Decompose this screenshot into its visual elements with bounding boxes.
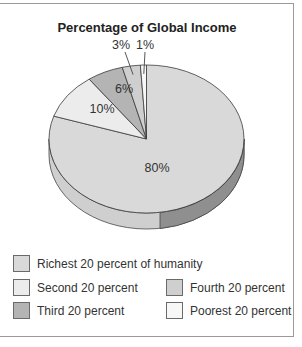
legend-item-third: Third 20 percent	[13, 302, 124, 319]
slice-value-label: 10%	[89, 102, 114, 116]
legend-swatch	[13, 279, 30, 296]
pie-chart: 80%10%6%3%1%	[0, 0, 302, 250]
slice-value-label: 3%	[112, 38, 130, 52]
slice-value-label: 6%	[115, 82, 133, 96]
legend-label: Fourth 20 percent	[190, 281, 285, 295]
pie-slices	[49, 65, 244, 213]
legend-item-second: Second 20 percent	[13, 279, 138, 296]
legend-swatch	[13, 302, 30, 319]
legend-label: Poorest 20 percent	[190, 304, 291, 318]
legend-item-richest: Richest 20 percent of humanity	[13, 255, 202, 272]
legend-label: Richest 20 percent of humanity	[37, 257, 202, 271]
legend-item-fourth: Fourth 20 percent	[166, 279, 285, 296]
slice-value-label: 80%	[144, 161, 169, 175]
slice-value-label: 1%	[136, 38, 154, 52]
legend-swatch	[166, 279, 183, 296]
legend-label: Second 20 percent	[37, 281, 138, 295]
legend-item-poorest: Poorest 20 percent	[166, 302, 291, 319]
legend-swatch	[166, 302, 183, 319]
legend-label: Third 20 percent	[37, 304, 124, 318]
legend-swatch	[13, 255, 30, 272]
